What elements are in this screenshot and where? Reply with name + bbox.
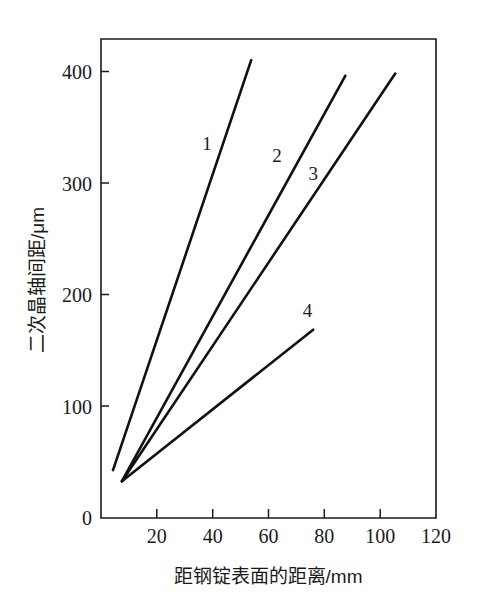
x-tick-label-80: 80	[314, 525, 334, 547]
curve-label-3: 3	[308, 163, 318, 184]
curve-label-1: 1	[202, 133, 212, 154]
chart-figure: 400 300 200 100 0 20 40 60 80 100 120 1 …	[0, 0, 483, 604]
x-tick-label-100: 100	[365, 525, 395, 547]
y-tick-label-200: 200	[62, 284, 92, 306]
data-curve-1	[113, 60, 251, 470]
y-tick-label-300: 300	[62, 173, 92, 195]
x-tick-label-120: 120	[421, 525, 451, 547]
data-curve-4	[122, 330, 313, 482]
y-tick-label-100: 100	[62, 396, 92, 418]
y-axis-title: 二次晶轴间距/μm	[27, 207, 48, 353]
y-tick-label-400: 400	[62, 61, 92, 83]
curve-labels: 1 2 3 4	[202, 133, 318, 321]
data-curves	[113, 60, 395, 481]
data-curve-3	[122, 74, 395, 482]
curve-label-4: 4	[303, 300, 313, 321]
curve-label-2: 2	[272, 145, 282, 166]
plot-frame	[101, 39, 436, 518]
x-axis-title: 距钢锭表面的距离/mm	[174, 566, 363, 587]
y-tick-label-0: 0	[82, 507, 92, 529]
x-tick-label-20: 20	[147, 525, 167, 547]
x-tick-label-40: 40	[203, 525, 223, 547]
x-tick-label-60: 60	[259, 525, 279, 547]
x-axis-ticks	[157, 509, 380, 518]
y-axis-ticks	[101, 72, 109, 407]
chart-canvas: 400 300 200 100 0 20 40 60 80 100 120 1 …	[0, 0, 483, 604]
data-curve-2	[122, 76, 345, 481]
